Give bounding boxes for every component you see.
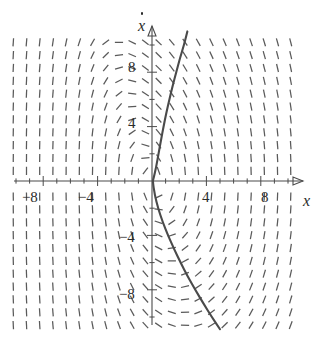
field-segment	[143, 206, 147, 213]
field-segment	[290, 141, 291, 149]
field-segment	[143, 168, 148, 175]
field-segment	[223, 90, 225, 98]
field-segment	[290, 103, 291, 111]
field-segment	[198, 167, 199, 175]
field-segment	[130, 322, 134, 329]
field-segment	[116, 91, 122, 96]
field-segment	[290, 128, 291, 136]
field-segment	[105, 270, 107, 278]
field-segment	[237, 64, 240, 72]
field-segment	[103, 52, 109, 58]
field-segment	[277, 205, 278, 213]
field-segment	[237, 77, 239, 85]
field-segment	[142, 131, 149, 134]
field-segment	[250, 103, 252, 111]
field-segment	[236, 296, 240, 303]
field-segment	[197, 103, 200, 111]
field-segment	[131, 244, 134, 252]
field-segment	[105, 244, 106, 252]
field-segment	[197, 218, 200, 226]
field-segment	[143, 309, 148, 315]
field-segment	[251, 141, 252, 149]
field-segment	[290, 51, 292, 59]
field-segment	[195, 271, 201, 276]
field-segment	[290, 115, 291, 123]
field-segment	[183, 64, 187, 71]
field-segment	[105, 141, 106, 149]
field-segment	[142, 91, 149, 96]
field-segment	[52, 51, 53, 59]
field-segment	[211, 128, 213, 136]
field-segment	[142, 78, 149, 83]
field-segment	[237, 205, 238, 213]
field-segment	[143, 322, 149, 328]
field-segment	[118, 218, 119, 226]
field-segment	[184, 128, 187, 136]
field-segment	[79, 321, 80, 329]
field-segment	[130, 309, 134, 316]
field-segment	[26, 64, 27, 72]
field-segment	[290, 90, 291, 98]
field-segment	[119, 192, 120, 200]
field-segment	[264, 218, 265, 226]
field-segment	[117, 116, 121, 123]
field-segment	[181, 259, 188, 263]
field-segment	[222, 296, 227, 303]
field-segment	[277, 218, 278, 226]
field-segment	[168, 220, 175, 225]
field-segment	[237, 51, 240, 59]
solution-trajectory-curve	[153, 31, 220, 329]
field-segment	[210, 39, 214, 46]
x-tick-label-pos8: 8	[261, 190, 268, 205]
field-segment	[263, 77, 265, 85]
field-segment	[263, 51, 265, 59]
field-segment	[141, 144, 149, 146]
field-segment	[115, 55, 123, 56]
field-segment	[143, 258, 148, 264]
field-segment	[236, 38, 239, 46]
field-segment	[118, 257, 120, 265]
field-segment	[290, 257, 292, 265]
field-segment	[156, 129, 161, 135]
field-segment	[79, 128, 80, 136]
field-segment	[197, 141, 199, 149]
field-segment	[277, 115, 278, 123]
field-segment	[92, 295, 93, 303]
field-segment	[105, 308, 107, 316]
field-segment	[224, 103, 226, 111]
field-segment	[263, 309, 266, 316]
field-segment	[66, 295, 67, 303]
field-segment	[236, 270, 239, 278]
field-segment	[210, 77, 213, 85]
field-segment	[168, 273, 176, 274]
field-segment	[264, 205, 265, 213]
field-segment	[223, 244, 226, 252]
field-segment	[277, 257, 279, 265]
field-segment	[263, 283, 266, 291]
field-segment	[251, 128, 252, 136]
field-segment	[277, 90, 279, 98]
field-segment	[224, 231, 226, 239]
field-segment	[65, 38, 67, 46]
field-segment	[79, 257, 80, 265]
field-segment	[290, 38, 292, 46]
field-segment	[66, 77, 67, 85]
field-segment	[92, 283, 93, 291]
field-segment	[237, 218, 238, 226]
field-segment	[79, 308, 80, 316]
field-segment	[290, 218, 291, 226]
field-segment	[39, 64, 40, 72]
field-segment	[118, 308, 121, 316]
field-segment	[251, 218, 252, 226]
field-segment	[290, 64, 292, 72]
field-segment	[13, 38, 14, 46]
field-segment	[79, 244, 80, 252]
field-segment	[128, 93, 136, 94]
field-segment	[263, 244, 265, 252]
field-segment	[237, 141, 238, 149]
field-segment	[156, 52, 162, 58]
field-segment	[222, 322, 228, 328]
field-segment	[250, 115, 251, 123]
field-segment	[250, 257, 252, 265]
field-segment	[197, 77, 200, 84]
